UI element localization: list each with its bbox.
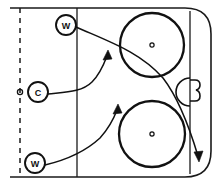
path-w2-line (45, 110, 117, 165)
player-token-c1[interactable]: C (28, 82, 48, 102)
rink-canvas: W C W (0, 0, 221, 189)
goal-area (176, 78, 200, 106)
top-faceoff-dot (150, 43, 154, 47)
player-token-w1[interactable]: W (56, 15, 76, 35)
path-w1-line (76, 27, 198, 156)
bottom-faceoff-circle (119, 101, 185, 167)
path-c1 (48, 50, 112, 94)
goal-net-icon (190, 80, 200, 101)
path-w2 (45, 104, 122, 165)
player-token-c1-label: C (35, 88, 42, 98)
center-line-group (17, 8, 22, 177)
bottom-faceoff-circle-ring (119, 101, 185, 167)
bottom-faceoff-dot (150, 132, 154, 136)
path-w2-arrowhead (113, 104, 122, 114)
player-token-w1-label: W (62, 21, 71, 31)
path-c1-arrowhead (103, 50, 112, 60)
path-w1-arrowhead (194, 151, 203, 162)
player-token-w2[interactable]: W (25, 153, 45, 173)
player-token-w2-label: W (31, 159, 40, 169)
hockey-rink-diagram: W C W (0, 0, 221, 189)
